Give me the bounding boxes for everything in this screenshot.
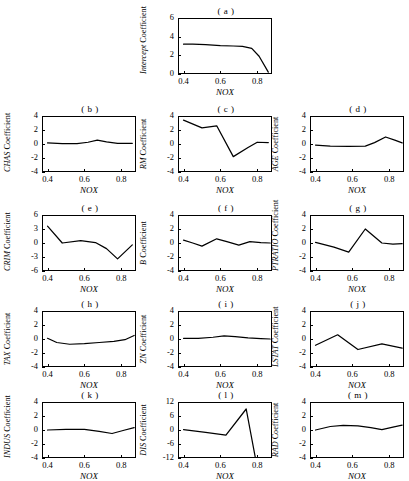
series-line-h — [4, 299, 140, 395]
series-line-c — [140, 104, 276, 200]
chart-panel-i: ( i )ZN Coefficient-4-20240.40.60.8NOX — [140, 299, 276, 395]
chart-panel-f: ( f )B Coefficient-4-20240.40.60.8NOX — [140, 203, 276, 299]
series-line-d — [272, 104, 408, 200]
series-line-e — [4, 203, 140, 299]
series-line-k — [4, 390, 140, 481]
multi-panel-coefficient-figure: ( a )Intercept Coefficient02460.40.60.8N… — [0, 0, 409, 481]
series-line-g — [272, 203, 408, 299]
series-line-a — [140, 6, 276, 102]
series-line-l — [140, 390, 276, 481]
series-line-j — [272, 299, 408, 395]
chart-panel-b: ( b )CHAS Coefficient-4-20240.40.60.8NOX — [4, 104, 140, 200]
chart-panel-j: ( j )LSTAT Coefficient-4-20240.40.60.8NO… — [272, 299, 408, 395]
series-line-f — [140, 203, 276, 299]
chart-panel-h: ( h )TAX Coefficient-4-20240.40.60.8NOX — [4, 299, 140, 395]
chart-panel-l: ( l )DIS Coefficient-12-606120.40.60.8NO… — [140, 390, 276, 481]
series-line-m — [272, 390, 408, 481]
series-line-b — [4, 104, 140, 200]
chart-panel-e: ( e )CRIM Coefficient-6-30360.40.60.8NOX — [4, 203, 140, 299]
chart-panel-g: ( g )PTRATIO Coefficient-4-20240.40.60.8… — [272, 203, 408, 299]
chart-panel-c: ( c )RM Coefficient-4-20240.40.60.8NOX — [140, 104, 276, 200]
chart-panel-a: ( a )Intercept Coefficient02460.40.60.8N… — [140, 6, 276, 102]
chart-panel-m: ( m )RAD Coefficient-4-20240.40.60.8NOX — [272, 390, 408, 481]
chart-panel-k: ( k )INDUS Coefficient-4-20240.40.60.8NO… — [4, 390, 140, 481]
series-line-i — [140, 299, 276, 395]
chart-panel-d: ( d )AGE Coefficient-4-20240.40.60.8NOX — [272, 104, 408, 200]
